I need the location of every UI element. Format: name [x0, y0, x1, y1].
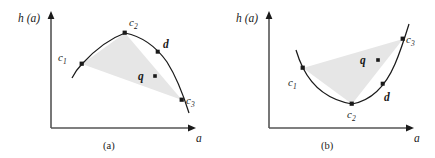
point-marker-c3-b [401, 37, 405, 41]
point-label-q-a: q [138, 71, 144, 83]
point-label-d-b: d [384, 92, 390, 104]
x-axis-label-a: a [196, 133, 202, 145]
panel-a: h (a) a c1 c2 c3 d q (a) [0, 0, 217, 158]
point-label-d-a: d [163, 39, 169, 51]
point-marker-c1-b [301, 66, 305, 70]
point-label-c3-b: c3 [406, 34, 415, 48]
panel-caption-a: (a) [103, 141, 115, 152]
point-marker-c2-b [350, 102, 354, 106]
x-axis-arrow-b [406, 125, 414, 132]
point-label-c1-b-sub: 1 [293, 82, 297, 91]
point-marker-q-b [376, 58, 380, 62]
figure-container: h (a) a c1 c2 c3 d q (a) [0, 0, 435, 158]
point-marker-c1-a [80, 62, 84, 66]
x-axis-label-b: a [414, 133, 420, 145]
y-axis-arrow-a [48, 11, 55, 19]
point-label-c1-b: c1 [288, 77, 297, 91]
panel-caption-b: (b) [321, 141, 333, 152]
y-axis-arrow-b [266, 11, 273, 19]
point-label-c3-a-sub: 3 [191, 100, 195, 109]
point-label-c2-b-sub: 2 [352, 114, 356, 123]
point-label-q-b: q [360, 55, 366, 67]
point-marker-d-a [156, 50, 160, 54]
point-label-c2-a-sub: 2 [134, 22, 138, 31]
point-label-c2-a: c2 [129, 17, 138, 31]
x-axis-arrow-a [188, 125, 196, 132]
point-marker-c3-a [180, 98, 184, 102]
point-marker-q-a [153, 74, 157, 78]
panel-b: h (a) a c1 c2 c3 d q (b) [218, 0, 435, 158]
point-label-c1-a-sub: 1 [63, 57, 67, 66]
y-axis-label-a: h (a) [18, 13, 40, 25]
point-label-c1-a: c1 [58, 52, 67, 66]
point-label-c3-b-sub: 3 [411, 39, 415, 48]
point-label-c3-a: c3 [186, 95, 195, 109]
y-axis-label-b: h (a) [236, 13, 258, 25]
point-marker-d-b [381, 82, 385, 86]
point-label-c2-b: c2 [347, 109, 356, 123]
point-marker-c2-a [123, 31, 127, 35]
